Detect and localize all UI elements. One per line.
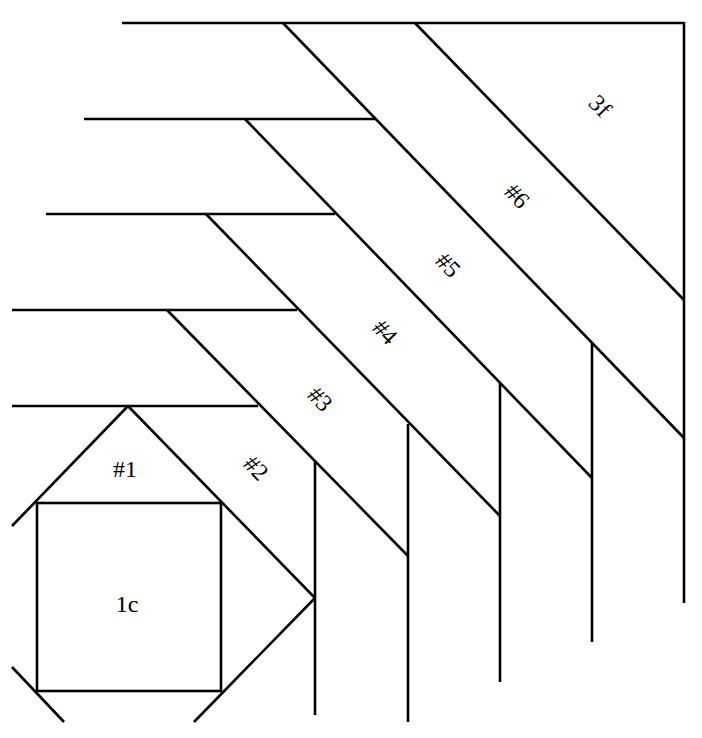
label-1c: 1c: [116, 591, 139, 617]
label-corner-3f: 3f: [584, 90, 617, 122]
label-piece-6: #6: [499, 178, 534, 213]
label-piece-5: #5: [430, 247, 465, 282]
label-piece-1: #1: [113, 456, 137, 482]
label-piece-3: #3: [302, 381, 337, 416]
center-diamond: [12, 406, 315, 722]
label-piece-4: #4: [367, 314, 402, 349]
vertical-lines: [315, 22, 684, 722]
label-piece-2: #2: [238, 450, 273, 485]
horizontal-lines: [12, 23, 684, 406]
piecing-diagram: 1c #1 #2 #3 #4 #5 #6 3f: [0, 0, 702, 738]
